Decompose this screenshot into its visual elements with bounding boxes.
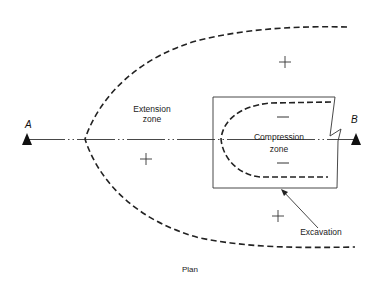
extension-zone-boundary (85, 27, 355, 248)
plus-sign-left (140, 153, 152, 165)
extension-zone-label-line1: Extension (122, 104, 182, 114)
point-a-label: A (25, 119, 32, 130)
point-b-marker (351, 133, 361, 145)
compression-zone-label-line2: zone (244, 143, 314, 155)
plus-sign-lower (272, 210, 284, 222)
plan-diagram (0, 0, 380, 281)
plus-sign-upper (279, 56, 291, 68)
excavation-label: Excavation (296, 227, 346, 237)
extension-zone-label: Extension zone (122, 104, 182, 124)
extension-zone-label-line2: zone (122, 114, 182, 124)
compression-zone-label-line1: Compression (244, 131, 314, 143)
compression-zone-label: Compression zone (244, 131, 314, 155)
excavation-leader-line (282, 190, 318, 228)
point-b-label: B (351, 114, 358, 125)
point-a-marker (22, 133, 32, 145)
figure-caption: Plan (175, 265, 205, 275)
